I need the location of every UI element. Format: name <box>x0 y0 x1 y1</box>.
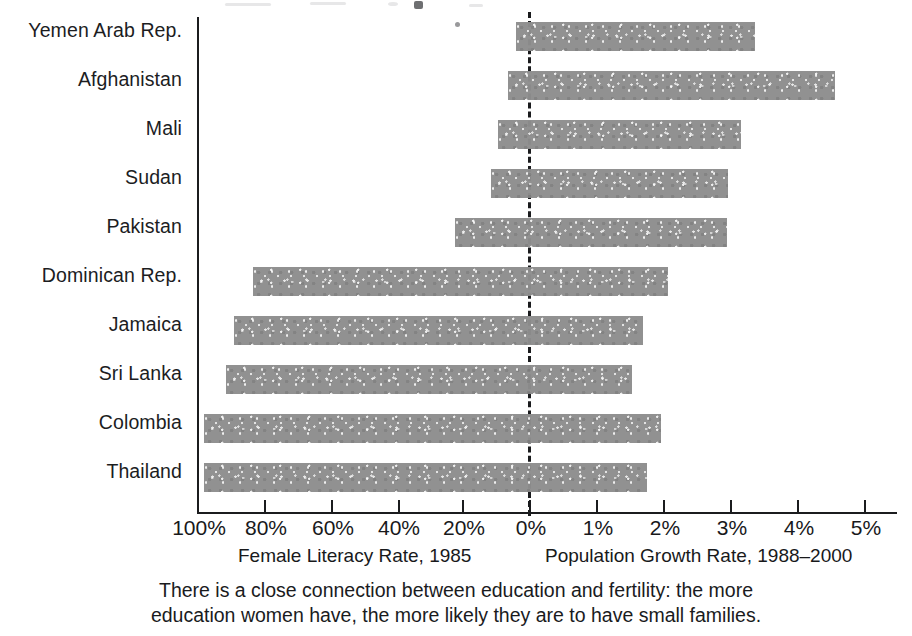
bar-afghanistan <box>508 71 835 100</box>
x-tick-4 <box>797 500 799 513</box>
category-label-sudan: Sudan <box>125 168 182 188</box>
x-tick-60 <box>331 500 333 513</box>
category-label-mali: Mali <box>146 119 182 139</box>
category-label-afghanistan: Afghanistan <box>78 70 182 90</box>
tick-label-5-percent: 5% <box>821 517 911 538</box>
bar-colombia <box>204 414 661 443</box>
bar-pakistan <box>455 218 727 247</box>
bar-sri-lanka <box>226 365 632 394</box>
category-label-jamaica: Jamaica <box>109 315 182 335</box>
bar-sudan <box>491 169 728 198</box>
right-axis-label: Population Growth Rate, 1988–2000 <box>545 546 852 565</box>
x-tick-1 <box>596 500 598 513</box>
x-tick-5 <box>864 500 866 513</box>
x-tick-20 <box>462 500 464 513</box>
category-label-yemen-arab-rep: Yemen Arab Rep. <box>28 21 182 41</box>
y-axis-line <box>197 17 199 513</box>
x-tick-2 <box>663 500 665 513</box>
x-tick-40 <box>398 500 400 513</box>
category-label-dominican-rep: Dominican Rep. <box>42 266 182 286</box>
figure-caption-line-1: There is a close connection between educ… <box>0 578 912 603</box>
x-axis-line <box>197 512 897 514</box>
x-tick-80 <box>264 500 266 513</box>
left-axis-label: Female Literacy Rate, 1985 <box>238 546 471 565</box>
figure-caption-line-2: education women have, the more likely th… <box>0 603 912 628</box>
category-label-colombia: Colombia <box>99 413 182 433</box>
bar-yemen-arab-rep <box>516 22 755 51</box>
bar-dominican-rep <box>253 267 668 296</box>
bar-mali <box>498 120 741 149</box>
figure-caption: There is a close connection between educ… <box>0 578 912 628</box>
x-tick-3 <box>730 500 732 513</box>
plot-area: Yemen Arab Rep. Afghanistan Mali Sudan P… <box>0 0 912 520</box>
bar-thailand <box>204 463 647 492</box>
category-label-sri-lanka: Sri Lanka <box>99 364 182 384</box>
bar-jamaica <box>234 316 643 345</box>
category-label-thailand: Thailand <box>106 462 182 482</box>
category-label-pakistan: Pakistan <box>106 217 182 237</box>
literacy-fertility-chart: Yemen Arab Rep. Afghanistan Mali Sudan P… <box>0 0 912 636</box>
x-tick-100 <box>197 500 199 513</box>
